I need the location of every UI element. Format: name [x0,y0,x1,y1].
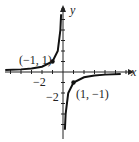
point-label-b: (1, −1) [76,88,109,100]
y-axis-label: y [70,4,75,16]
point-label-a: (−1, 1) [19,54,52,66]
graph-figure: y x −2 −2 (−1, 1) (1, −1) [0,0,139,142]
y-tick-label: −2 [46,91,59,103]
x-axis-label: x [131,66,136,78]
point-marker [71,80,75,84]
graph-canvas [0,0,139,142]
x-tick-label: −2 [33,76,46,88]
